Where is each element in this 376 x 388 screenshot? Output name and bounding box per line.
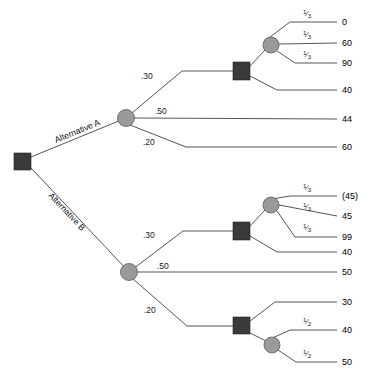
svg-text:1⁄3: 1⁄3: [303, 8, 312, 19]
frac-den: 2: [308, 320, 312, 327]
label-prob-b-high: .30: [143, 230, 155, 240]
svg-text:1⁄2: 1⁄2: [303, 316, 312, 327]
edge-decision-b3-to-outcome-30: [250, 302, 337, 321]
outcome-a1-sure: 40: [342, 85, 352, 95]
node-chance-b1[interactable]: [263, 197, 279, 213]
edge-chance-a1-to-outcome-0: [266, 22, 337, 40]
node-decision-a1[interactable]: [233, 62, 250, 80]
node-chance-b3[interactable]: [264, 337, 280, 353]
decision-tree-canvas: Alternative A Alternative B .30 .50 .20 …: [0, 0, 376, 388]
label-frac-a1-1: 1⁄3: [303, 8, 312, 19]
outcome-b-branch2: 50: [342, 267, 352, 277]
outcome-b3-lottery1: 40: [342, 325, 352, 335]
edge-decision-a1-to-outcome-40a: [250, 76, 337, 90]
label-prob-a-mid: .50: [155, 106, 167, 116]
edge-chance-a-to-outcome-44: [134, 118, 337, 119]
svg-text:1⁄3: 1⁄3: [303, 222, 312, 233]
edge-chance-b-to-decision-b3: [133, 279, 233, 326]
outcome-b1-lottery1: (45): [342, 191, 358, 201]
frac-den: 3: [308, 205, 312, 212]
edge-chance-a-to-outcome-60a: [130, 125, 337, 147]
frac-den: 3: [308, 53, 312, 60]
outcome-b3-sure: 30: [342, 297, 352, 307]
label-alternative-b: Alternative B: [47, 190, 88, 232]
node-root-decision[interactable]: [14, 153, 31, 170]
node-chance-alternative-b[interactable]: [121, 264, 138, 281]
edge-root-to-alternative-a: [31, 118, 126, 157]
label-frac-a1-2: 1⁄3: [303, 29, 312, 40]
svg-text:1⁄3: 1⁄3: [303, 49, 312, 60]
frac-den: 3: [308, 33, 312, 40]
label-frac-b3-2: 1⁄2: [303, 348, 312, 359]
label-prob-a-low: .20: [143, 137, 155, 147]
edge-decision-b1-to-chance-b1: [250, 210, 265, 226]
edge-decision-b1-to-outcome-40b: [250, 236, 337, 252]
label-prob-a-high: .30: [141, 71, 153, 81]
outcome-b1-lottery3: 99: [342, 232, 352, 242]
outcome-a1-lottery1: 0: [342, 17, 347, 27]
frac-den: 3: [308, 12, 312, 19]
label-frac-b1-2: 1⁄3: [303, 201, 312, 212]
svg-text:1⁄2: 1⁄2: [303, 348, 312, 359]
outcome-a1-lottery3: 90: [342, 58, 352, 68]
svg-text:1⁄3: 1⁄3: [303, 182, 312, 193]
node-decision-b1[interactable]: [233, 222, 250, 240]
frac-den: 2: [308, 352, 312, 359]
frac-den: 3: [308, 186, 312, 193]
label-prob-b-mid: .50: [157, 261, 169, 271]
label-frac-a1-3: 1⁄3: [303, 49, 312, 60]
decision-tree-diagram: Alternative A Alternative B .30 .50 .20 …: [0, 0, 376, 388]
label-frac-b1-3: 1⁄3: [303, 222, 312, 233]
edge-chance-a1-to-outcome-60b: [279, 43, 337, 44]
outcome-b1-lottery2: 45: [342, 211, 352, 221]
label-prob-b-low: .20: [144, 305, 156, 315]
edge-chance-b3-to-outcome-40c: [268, 330, 337, 340]
outcome-a-branch2: 44: [342, 114, 352, 124]
label-frac-b3-1: 1⁄2: [303, 316, 312, 327]
svg-text:1⁄3: 1⁄3: [303, 29, 312, 40]
node-decision-b3[interactable]: [233, 317, 250, 334]
outcome-b1-sure: 40: [342, 247, 352, 257]
outcome-a1-lottery2: 60: [342, 38, 352, 48]
outcome-b3-lottery2: 50: [342, 357, 352, 367]
node-chance-a1[interactable]: [263, 37, 279, 53]
edge-decision-a1-to-chance-a1: [250, 50, 265, 66]
edge-decision-b3-to-chance-b3: [250, 333, 266, 341]
node-chance-alternative-a[interactable]: [118, 110, 135, 127]
frac-den: 3: [308, 226, 312, 233]
label-frac-b1-1: 1⁄3: [303, 182, 312, 193]
svg-text:1⁄3: 1⁄3: [303, 201, 312, 212]
outcome-a-branch3: 60: [342, 142, 352, 152]
